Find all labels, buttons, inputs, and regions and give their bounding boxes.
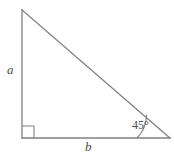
geometry-figure: a b 45° bbox=[0, 0, 174, 160]
horizontal-leg-label: b bbox=[85, 140, 92, 153]
right-angle-square-marker bbox=[22, 126, 34, 138]
triangle-diagram-svg bbox=[0, 0, 174, 160]
angle-measure-label: 45° bbox=[132, 119, 149, 131]
vertical-leg-label: a bbox=[7, 63, 14, 76]
